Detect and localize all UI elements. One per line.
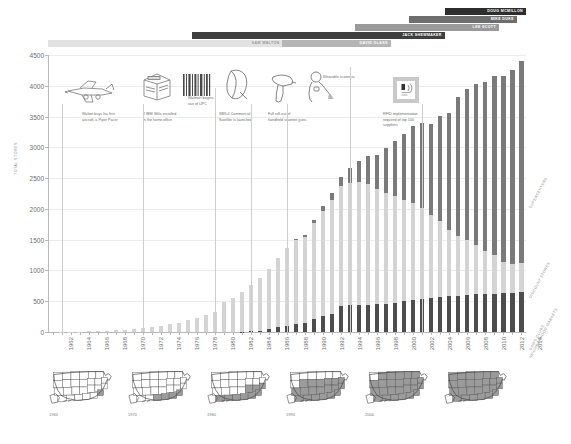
us-map: 2000 xyxy=(364,362,431,410)
stacked-bar xyxy=(276,258,280,332)
y-axis-line xyxy=(48,55,49,332)
stacked-bar xyxy=(330,193,334,332)
bar-segment xyxy=(402,301,406,332)
x-axis-tick-mark xyxy=(89,332,90,335)
x-axis-tick-label: 1996 xyxy=(375,337,381,350)
bar-segment xyxy=(456,97,460,236)
bar-segment xyxy=(384,148,388,192)
x-axis-tick-mark xyxy=(323,332,324,335)
bar-segment xyxy=(294,240,298,324)
x-axis-tick-label: 1992 xyxy=(339,337,345,350)
stacked-bar xyxy=(465,89,469,332)
y-axis-tick-label: 1500 xyxy=(30,236,44,243)
bar-segment xyxy=(375,304,379,332)
bar-segment xyxy=(366,156,370,184)
x-axis-tick-mark xyxy=(485,332,486,335)
x-axis-tick-mark xyxy=(476,332,477,335)
milestone-leader-line xyxy=(350,67,351,332)
stacked-bar xyxy=(339,177,343,332)
stacked-bar xyxy=(519,61,523,332)
stacked-bar xyxy=(411,126,415,332)
gridline xyxy=(48,55,526,56)
y-axis-tick-label: 500 xyxy=(33,298,44,305)
bar-segment xyxy=(330,314,334,332)
x-axis-tick-label: 1978 xyxy=(213,337,219,350)
x-axis-tick-label: 1982 xyxy=(249,337,255,350)
x-axis-tick-mark xyxy=(224,332,225,335)
bar-segment xyxy=(456,296,460,332)
bar-segment xyxy=(222,302,226,332)
x-axis-tick-label: 1990 xyxy=(321,337,327,350)
bar-segment xyxy=(321,211,325,317)
x-axis-tick-mark xyxy=(440,332,441,335)
milestone-leader-line xyxy=(215,88,216,332)
ceo-timeline: SAM WALTONDAVID GLASSJACK SHEWMAKERLEE S… xyxy=(0,0,571,56)
stacked-bar xyxy=(177,323,181,332)
x-axis-tick-mark xyxy=(170,332,171,335)
x-axis-tick-label: 1972 xyxy=(159,337,165,350)
bar-segment xyxy=(429,124,433,215)
bar-segment xyxy=(411,203,415,300)
y-axis-tick-label: 1000 xyxy=(30,267,44,274)
milestone-leader-line xyxy=(143,104,144,332)
x-axis-tick-mark xyxy=(98,332,99,335)
ceo-name-label: MIKE DUKE xyxy=(491,16,517,23)
x-axis-tick-label: 2008 xyxy=(483,337,489,350)
us-map: 1980 xyxy=(206,362,273,410)
stacked-bar xyxy=(321,206,325,332)
bar-segment xyxy=(447,296,451,332)
stacked-bar xyxy=(375,155,379,333)
x-axis-tick-mark xyxy=(404,332,405,335)
x-axis-tick-mark xyxy=(188,332,189,335)
x-axis-tick-mark xyxy=(503,332,504,335)
stacked-bar xyxy=(303,235,307,332)
airplane-icon xyxy=(62,78,118,108)
map-year-label: 1960 xyxy=(49,412,58,417)
x-axis-tick-label: 1984 xyxy=(267,337,273,350)
bar-segment xyxy=(465,89,469,240)
bar-segment xyxy=(240,292,244,332)
milestone-caption: 2 IBM 360s installed in the home office xyxy=(143,112,189,123)
x-axis-tick-mark xyxy=(197,332,198,335)
x-axis-tick-mark xyxy=(341,332,342,335)
bar-segment xyxy=(429,298,433,332)
x-axis-tick-mark xyxy=(71,332,72,335)
ceo-tenure-bar: LEE SCOTT xyxy=(355,24,499,31)
stacked-bar xyxy=(474,84,478,332)
x-axis-tick-mark xyxy=(251,332,252,335)
bar-segment xyxy=(384,193,388,304)
bar-segment xyxy=(330,200,334,314)
series-category-label: DISCOUNT STORES xyxy=(528,261,551,299)
bar-segment xyxy=(312,319,316,332)
x-axis-tick-mark xyxy=(467,332,468,335)
y-axis-tick-label: 0 xyxy=(40,329,44,336)
x-axis-tick-mark xyxy=(305,332,306,335)
walmart-growth-infographic: SAM WALTONDAVID GLASSJACK SHEWMAKERLEE S… xyxy=(0,0,571,444)
stacked-bar xyxy=(258,278,262,332)
x-axis-tick-mark xyxy=(116,332,117,335)
x-axis-tick-mark xyxy=(215,332,216,335)
bar-segment xyxy=(492,76,496,255)
bar-segment xyxy=(519,263,523,292)
bar-segment xyxy=(186,320,190,332)
us-map: 1970 xyxy=(127,362,194,410)
y-axis-tick-label: 2500 xyxy=(30,175,44,182)
x-axis-tick-label: 1966 xyxy=(104,337,110,350)
stacked-bar xyxy=(447,113,451,332)
bar-segment xyxy=(483,251,487,295)
x-axis-tick-mark xyxy=(296,332,297,335)
y-axis-tick-label: 4500 xyxy=(30,52,44,59)
x-axis-tick-label: 2006 xyxy=(465,337,471,350)
ceo-name-label: JACK SHEWMAKER xyxy=(402,32,445,39)
bar-segment xyxy=(339,306,343,332)
ceo-name-label: SAM WALTON xyxy=(252,40,283,47)
x-axis-tick-label: 2002 xyxy=(429,337,435,350)
x-axis-tick-mark xyxy=(53,332,54,335)
bar-segment xyxy=(366,184,370,305)
bar-segment xyxy=(267,269,271,329)
x-axis-tick-mark xyxy=(332,332,333,335)
bar-segment xyxy=(501,76,505,262)
bar-segment xyxy=(339,186,343,306)
x-axis-tick-mark xyxy=(260,332,261,335)
x-axis-tick-label: 2004 xyxy=(447,337,453,350)
